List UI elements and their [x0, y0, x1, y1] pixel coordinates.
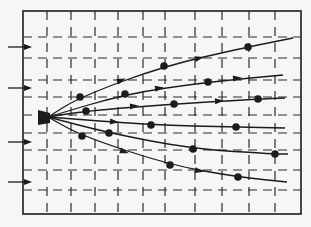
- trajectory-marker: [271, 150, 279, 158]
- trajectory-marker: [166, 161, 174, 169]
- incoming-arrow-icon: [8, 85, 32, 91]
- trajectory-marker: [204, 78, 212, 86]
- trajectories: [48, 38, 293, 182]
- trajectory-marker: [147, 121, 155, 129]
- trajectory-marker: [244, 43, 252, 51]
- source-wedge: [38, 110, 50, 125]
- trajectory-marker: [254, 95, 262, 103]
- incoming-arrow-icon: [8, 179, 32, 185]
- direction-arrow-icon: [215, 98, 224, 105]
- incoming-arrow-icon: [8, 139, 32, 145]
- trajectory-marker: [232, 123, 240, 131]
- diagram-stage: [0, 0, 311, 227]
- trajectory-marker: [78, 132, 86, 140]
- trajectory-marker: [160, 62, 168, 70]
- trajectory-marker: [76, 93, 84, 101]
- trajectory-marker: [170, 100, 178, 108]
- trajectory-marker: [121, 90, 129, 98]
- direction-arrow-icon: [130, 103, 139, 110]
- trajectory-marker: [189, 145, 197, 153]
- trajectory-diagram: [0, 0, 311, 227]
- trajectory-marker: [234, 173, 242, 181]
- trajectory-marker: [105, 129, 113, 137]
- incoming-arrow-icon: [8, 44, 32, 50]
- trajectory-marker: [82, 107, 90, 115]
